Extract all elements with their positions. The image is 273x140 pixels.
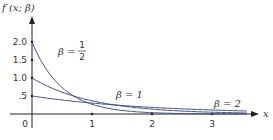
- y-tick-2-0: 2.0: [13, 37, 28, 47]
- x-axis-arrow-icon: [251, 111, 259, 117]
- chart-canvas: f (x; β) x 2.0 1.5 1.0 .5 0 1 2 3 β = 1 …: [0, 0, 273, 140]
- annotation-beta-half: β = 1 2: [57, 40, 86, 62]
- y-axis-label: f (x; β): [1, 2, 35, 13]
- y-tick-1-5: 1.5: [13, 55, 27, 65]
- x-tick-1: 1: [89, 119, 95, 129]
- y-tick-0-5: .5: [18, 91, 27, 101]
- x-axis-label: x: [263, 108, 269, 119]
- x-tick-2: 2: [149, 119, 155, 129]
- y-axis-arrow-icon: [29, 16, 35, 24]
- svg-text:2: 2: [79, 52, 85, 62]
- y-tick-1-0: 1.0: [13, 73, 28, 83]
- svg-text:β =: β =: [57, 46, 75, 57]
- x-tick-3: 3: [209, 119, 215, 129]
- annotation-beta-one: β = 1: [115, 89, 143, 100]
- svg-text:1: 1: [79, 40, 85, 50]
- origin-label: 0: [22, 119, 28, 129]
- annotation-beta-two: β = 2: [213, 98, 241, 109]
